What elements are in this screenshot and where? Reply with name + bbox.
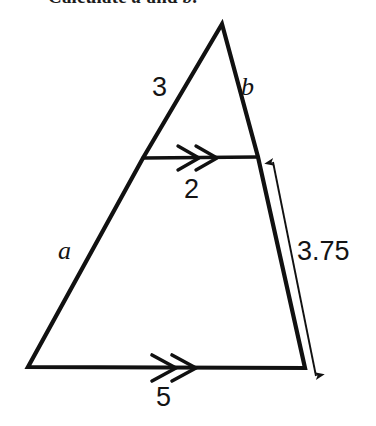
label-base: 5 — [156, 384, 171, 411]
label-transversal: 2 — [184, 176, 199, 203]
geometry-figure: Calculate a and b. 3 b a 2 — [0, 0, 376, 426]
label-upper-left-side: 3 — [152, 74, 167, 101]
label-lower-left-side: a — [58, 238, 71, 264]
label-upper-right-side: b — [241, 74, 254, 100]
dimension-line-right — [273, 162, 316, 376]
triangle-diagram — [0, 0, 376, 426]
label-right-dimension: 3.75 — [297, 238, 350, 265]
